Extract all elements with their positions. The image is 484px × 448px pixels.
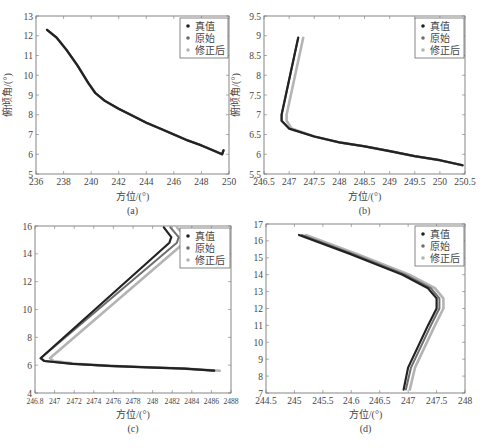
- panel-label: (a): [127, 205, 138, 217]
- y-axis-label: 俯倾角/(°): [229, 73, 242, 116]
- x-tick-label: 245.5: [312, 396, 334, 406]
- y-tick-label: 7: [256, 110, 261, 120]
- x-tick-label: 242: [112, 177, 127, 187]
- legend-marker: [421, 232, 425, 236]
- legend-marker: [421, 244, 425, 248]
- legend-marker: [186, 234, 190, 238]
- y-tick-label: 7.5: [249, 91, 261, 101]
- y-tick-label: 12: [254, 304, 264, 314]
- x-tick-label: 2474: [86, 397, 101, 406]
- legend: 真值原始修正后: [180, 18, 228, 58]
- y-tick-label: 8: [28, 110, 33, 120]
- y-tick-label: 9: [256, 31, 261, 41]
- legend-marker: [186, 258, 190, 262]
- y-axis-label: 俯倾角/(°): [1, 73, 14, 116]
- panel-label: (d): [360, 423, 372, 435]
- y-tick-label: 14: [23, 249, 33, 259]
- x-tick-label: 244: [139, 177, 154, 187]
- x-tick-label: 2478: [125, 397, 140, 406]
- y-tick-label: 15: [254, 253, 264, 263]
- chart-panel-c: 46810121416246.8247247224742476247824824…: [23, 222, 239, 436]
- y-tick-label: 8: [256, 71, 261, 81]
- legend-marker: [186, 24, 190, 28]
- y-tick-label: 6: [256, 150, 261, 160]
- x-axis-label: 方位/(°): [116, 190, 149, 203]
- legend-label: 原始: [430, 32, 450, 44]
- legend-label: 真值: [195, 20, 215, 32]
- legend: 真值原始修正后: [180, 228, 230, 268]
- x-tick-label: 244.5: [255, 396, 277, 406]
- y-tick-label: 10: [254, 338, 264, 348]
- legend-label: 原始: [195, 242, 215, 254]
- legend-label: 真值: [430, 228, 450, 240]
- y-tick-label: 13: [24, 12, 34, 22]
- y-tick-label: 6: [27, 361, 32, 371]
- x-tick-label: 236: [29, 177, 44, 187]
- legend-label: 修正后: [195, 44, 225, 56]
- x-tick-label: 249.5: [404, 177, 426, 187]
- x-axis-label: 方位/(°): [349, 408, 382, 421]
- legend-label: 修正后: [195, 254, 225, 266]
- x-tick-label: 24.6: [343, 396, 360, 406]
- legend-label: 原始: [430, 240, 450, 252]
- x-tick-label: 248: [458, 396, 473, 406]
- legend-marker: [186, 246, 190, 250]
- y-tick-label: 11: [254, 321, 263, 331]
- y-tick-label: 11: [24, 51, 33, 61]
- y-tick-label: 10: [23, 305, 33, 315]
- x-tick-label: 246.8: [26, 397, 43, 406]
- x-tick-label: 238: [56, 177, 71, 187]
- panel-label: (c): [127, 423, 138, 435]
- y-tick-label: 8: [258, 372, 263, 382]
- legend-marker: [421, 256, 425, 260]
- panel-label: (b): [359, 205, 371, 217]
- x-tick-label: 240: [84, 177, 99, 187]
- x-tick-label: 2484: [184, 397, 199, 406]
- figure-canvas: 5678910111213236238240242244246248250真值原…: [0, 0, 484, 448]
- x-tick-label: 248.5: [354, 177, 376, 187]
- x-tick-label: 248: [194, 177, 209, 187]
- y-tick-label: 12: [24, 31, 34, 41]
- x-tick-label: 2482: [165, 397, 180, 406]
- legend-label: 修正后: [430, 44, 460, 56]
- x-tick-label: 249: [383, 177, 398, 187]
- x-tick-label: 2472: [67, 397, 82, 406]
- y-tick-label: 13: [254, 287, 264, 297]
- x-tick-label: 2488: [223, 397, 238, 406]
- legend-label: 修正后: [430, 252, 460, 264]
- y-tick-label: 6: [28, 150, 33, 160]
- y-tick-label: 9: [28, 91, 33, 101]
- y-tick-label: 14: [254, 270, 264, 280]
- x-tick-label: 246.5: [253, 177, 275, 187]
- x-tick-label: 246.5: [369, 396, 391, 406]
- chart-panel-b: 5.566.577.588.599.5246.5247247.5248248.5…: [229, 12, 476, 218]
- x-tick-label: 247: [282, 177, 297, 187]
- x-tick-label: 248: [332, 177, 347, 187]
- legend-marker: [186, 48, 190, 52]
- legend-marker: [421, 24, 425, 28]
- chart-panel-a: 5678910111213236238240242244246248250真值原…: [1, 12, 236, 218]
- y-tick-label: 8: [27, 333, 32, 343]
- x-tick-label: 247.5: [304, 177, 326, 187]
- x-tick-label: 245: [287, 396, 302, 406]
- y-tick-label: 16: [254, 236, 264, 246]
- y-tick-label: 8.5: [249, 51, 261, 61]
- legend: 真值原始修正后: [415, 226, 464, 266]
- legend-marker: [421, 36, 425, 40]
- x-tick-label: 248: [147, 397, 159, 406]
- y-tick-label: 17: [254, 220, 264, 230]
- y-tick-label: 10: [24, 71, 34, 81]
- y-tick-label: 6.5: [249, 130, 261, 140]
- x-tick-label: 2486: [204, 397, 219, 406]
- x-tick-label: 2476: [106, 397, 121, 406]
- legend-label: 真值: [195, 230, 215, 242]
- x-axis-label: 方位/(°): [116, 408, 149, 421]
- y-tick-label: 9: [258, 355, 263, 365]
- x-axis-label: 方位/(°): [348, 190, 381, 203]
- y-tick-label: 12: [23, 277, 33, 287]
- legend-label: 真值: [430, 20, 450, 32]
- x-tick-label: 246: [167, 177, 182, 187]
- legend-marker: [421, 48, 425, 52]
- y-tick-label: 16: [23, 222, 33, 232]
- y-tick-label: 9.5: [249, 12, 261, 22]
